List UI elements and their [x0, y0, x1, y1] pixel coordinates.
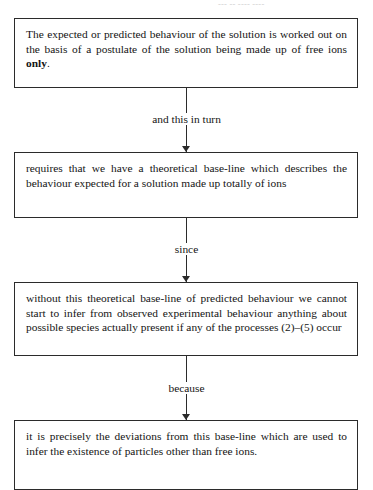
- flowchart-node-2-text: requires that we have a theoretical base…: [26, 161, 347, 190]
- connector-3-label: because: [0, 382, 373, 395]
- flowchart-node-2: requires that we have a theoretical base…: [14, 152, 358, 218]
- flowchart-node-3: without this theoretical base-line of pr…: [14, 282, 358, 356]
- flowchart-node-3-text: without this theoretical base-line of pr…: [26, 291, 347, 335]
- connector-1-label: and this in turn: [0, 113, 373, 126]
- connector-2-label: since: [0, 243, 373, 256]
- flowchart-node-1-text: The expected or predicted behaviour of t…: [26, 27, 347, 71]
- flowchart-node-4-text: it is precisely the deviations from this…: [26, 429, 347, 458]
- node-1-bold-only: only: [26, 57, 47, 69]
- node-1-text-before-bold: The expected or predicted behaviour of t…: [26, 28, 347, 55]
- page-bleed-text: — — --- -- ---- ----: [196, 0, 368, 5]
- node-1-text-after-bold: .: [47, 57, 50, 69]
- flowchart-node-1: The expected or predicted behaviour of t…: [14, 18, 358, 88]
- flowchart-node-4: it is precisely the deviations from this…: [14, 420, 358, 490]
